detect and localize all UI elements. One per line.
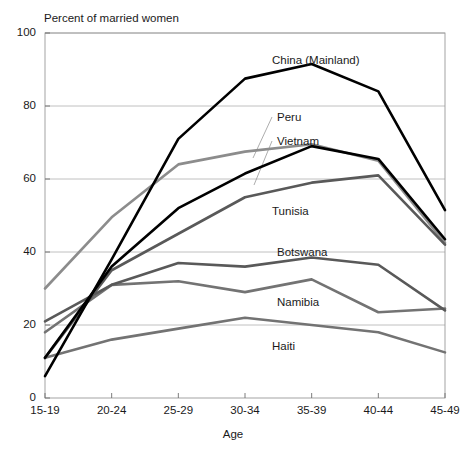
- series-line-china-mainland: [45, 64, 445, 376]
- series-label-haiti: Haiti: [272, 340, 295, 352]
- y-tick-label: 20: [2, 319, 36, 330]
- x-axis-title: Age: [0, 428, 466, 440]
- plot-frame: [45, 33, 445, 398]
- series-label-peru: Peru: [277, 111, 301, 123]
- y-tick-label: 40: [2, 246, 36, 257]
- x-tick-label: 20-24: [81, 404, 143, 416]
- y-tick-label: 80: [2, 100, 36, 111]
- y-tick-label: 60: [2, 173, 36, 184]
- x-tick-label: 25-29: [147, 404, 209, 416]
- series-label-namibia: Namibia: [277, 296, 319, 308]
- line-chart: Percent of married women 020406080100 15…: [0, 0, 466, 451]
- series-label-tunisia: Tunisia: [272, 205, 309, 217]
- y-tick-label: 100: [2, 27, 36, 38]
- y-tick-label: 0: [2, 392, 36, 403]
- x-tick-label: 15-19: [14, 404, 76, 416]
- x-tick-label: 40-44: [347, 404, 409, 416]
- series-label-vietnam: Vietnam: [277, 135, 319, 147]
- plot-area: [0, 0, 466, 451]
- x-tick-label: 30-34: [214, 404, 276, 416]
- x-tick-label: 45-49: [414, 404, 466, 416]
- leader-line: [253, 117, 272, 158]
- y-axis-title: Percent of married women: [44, 12, 179, 24]
- series-label-china-mainland: China (Mainland): [272, 54, 360, 66]
- series-line-haiti: [45, 318, 445, 358]
- series-label-botswana: Botswana: [277, 246, 328, 258]
- x-tick-label: 35-39: [281, 404, 343, 416]
